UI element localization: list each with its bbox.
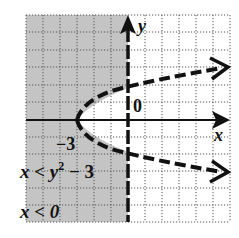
origin-label: 0 [133, 96, 142, 116]
inequality-1-label: x < y2 − 3 [19, 159, 94, 182]
inequality-graph: y x 0 −3 x < y2 − 3 x < 0 [0, 0, 239, 238]
y-axis-label: y [136, 16, 147, 36]
inequality-2-label: x < 0 [19, 201, 60, 222]
x-axis-label: x [213, 125, 223, 145]
vertex-label: −3 [56, 134, 75, 154]
